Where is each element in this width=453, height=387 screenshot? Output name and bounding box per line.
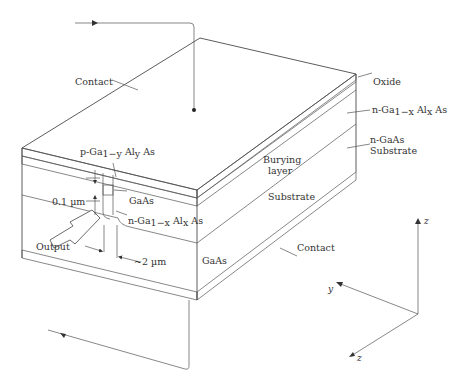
label-output: Output xyxy=(36,241,70,252)
axis-label-left: y xyxy=(327,284,334,294)
label-gaas-active: GaAs xyxy=(129,195,154,206)
coordinate-axes: z y z xyxy=(327,216,429,363)
thickness-dimension xyxy=(86,170,100,215)
axis-up-arrow-icon xyxy=(415,218,421,224)
width-dimension xyxy=(85,225,140,262)
top-contact-face xyxy=(22,38,356,190)
axis-label-up: z xyxy=(423,216,429,226)
label-n-gaas: n-GaAs xyxy=(370,134,404,145)
label-n-gaalas-lower: n-Ga1−x Alx As xyxy=(128,215,203,228)
wire-contact-dot-icon xyxy=(192,108,196,112)
label-n-gaas-substrate: Substrate xyxy=(370,145,417,156)
top-wire xyxy=(75,20,196,112)
label-width: ~2 µm xyxy=(134,256,166,267)
axis-label-down: z xyxy=(356,353,362,363)
label-substrate: Substrate xyxy=(268,191,315,202)
right-face xyxy=(197,74,356,300)
label-gaas-front: GaAs xyxy=(202,255,227,266)
label-burying: Burying xyxy=(263,154,301,165)
label-n-gaalas: n-Ga1−x Alx As xyxy=(372,104,447,117)
axis-down-arrow-icon xyxy=(349,352,355,357)
axis-left-arrow-icon xyxy=(336,282,343,287)
label-thickness: 0.1 µm xyxy=(52,196,85,207)
label-burying-layer: layer xyxy=(268,165,293,176)
bottom-wire xyxy=(48,300,189,369)
label-contact-bottom: Contact xyxy=(297,242,335,253)
active-stripe xyxy=(103,173,113,219)
label-oxide: Oxide xyxy=(373,76,401,87)
laser-structure-diagram: Contact Oxide n-Ga1−x Alx As n-GaAs Subs… xyxy=(0,0,453,387)
label-p-gaalas: p-Ga1−y Aly As xyxy=(80,146,155,159)
label-contact-top: Contact xyxy=(75,76,113,87)
